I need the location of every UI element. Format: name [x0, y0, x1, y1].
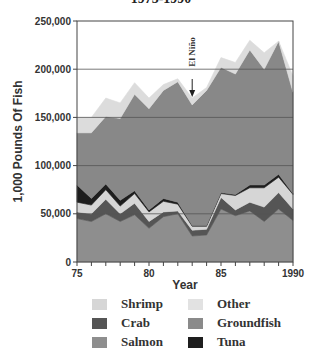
legend-label: Tuna	[217, 334, 245, 350]
legend-swatch-crab	[92, 318, 107, 329]
stacked-area-chart: 050,000100,000150,000200,000250,00075808…	[0, 0, 322, 295]
y-tick-label: 150,000	[35, 112, 72, 123]
el-nino-annotation: El Niño	[187, 37, 197, 67]
legend-swatch-other	[188, 299, 203, 310]
legend-label: Groundfish	[217, 315, 281, 331]
x-tick-label: 80	[143, 268, 155, 279]
legend-label: Other	[217, 296, 250, 312]
legend-item-salmon: Salmon	[92, 334, 163, 350]
y-tick-label: 100,000	[35, 160, 72, 171]
y-tick-label: 200,000	[35, 64, 72, 75]
legend-item-crab: Crab	[92, 315, 150, 331]
x-tick-label: 75	[71, 268, 83, 279]
legend-item-other: Other	[188, 296, 250, 312]
legend-item-tuna: Tuna	[188, 334, 245, 350]
legend-swatch-tuna	[188, 337, 203, 348]
legend-label: Crab	[121, 315, 150, 331]
legend-swatch-groundfish	[188, 318, 203, 329]
legend-swatch-salmon	[92, 337, 107, 348]
x-tick-label: 85	[215, 268, 227, 279]
legend-swatch-shrimp	[92, 299, 107, 310]
x-axis-label: Year	[172, 278, 198, 292]
y-tick-label: 250,000	[35, 16, 72, 27]
y-tick-label: 0	[65, 257, 71, 268]
legend-label: Salmon	[121, 334, 163, 350]
x-tick-label: 1990	[282, 268, 305, 279]
legend-item-groundfish: Groundfish	[188, 315, 281, 331]
legend-label: Shrimp	[121, 296, 163, 312]
legend-item-shrimp: Shrimp	[92, 296, 163, 312]
y-axis-label: 1,000 Pounds Of Fish	[11, 80, 25, 202]
y-tick-label: 50,000	[40, 208, 71, 219]
